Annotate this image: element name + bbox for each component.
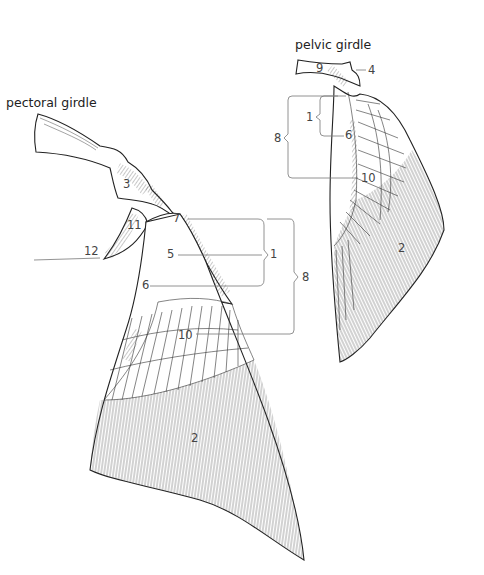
pelvic-label-6: 6 (345, 130, 352, 142)
pelvic-girdle-drawing (296, 60, 444, 362)
pectoral-label-10: 10 (178, 330, 193, 342)
pectoral-label-3: 3 (123, 179, 130, 191)
pelvic-label-9: 9 (316, 63, 323, 75)
pelvic-label-8: 8 (274, 133, 281, 145)
pectoral-label-5: 5 (167, 249, 174, 261)
pectoral-label-6: 6 (142, 280, 149, 292)
pectoral-label-7: 7 (173, 213, 180, 225)
pectoral-label-12: 12 (84, 246, 99, 258)
pelvic-label-2: 2 (398, 243, 405, 255)
pelvic-label-4: 4 (368, 65, 375, 77)
pectoral-label-2: 2 (191, 433, 198, 445)
pectoral-label-8: 8 (302, 272, 309, 284)
pectoral-label-1: 1 (270, 249, 277, 261)
fin-illustration (0, 0, 484, 575)
pectoral-girdle-title: pectoral girdle (6, 95, 97, 110)
pelvic-girdle-title: pelvic girdle (295, 37, 371, 52)
pectoral-label-11: 11 (127, 220, 142, 232)
pectoral-girdle-drawing (35, 114, 304, 560)
pelvic-label-1: 1 (306, 112, 313, 124)
pelvic-label-10: 10 (361, 173, 376, 185)
